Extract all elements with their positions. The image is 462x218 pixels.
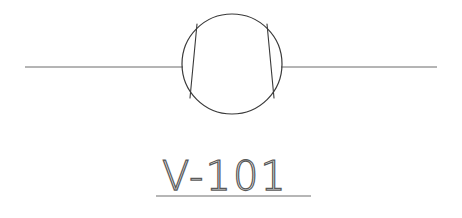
diagram-canvas: V-101 [0, 0, 462, 218]
equipment-tag-label: V-101 [162, 153, 288, 199]
pid-diagram: V-101 [0, 0, 462, 218]
